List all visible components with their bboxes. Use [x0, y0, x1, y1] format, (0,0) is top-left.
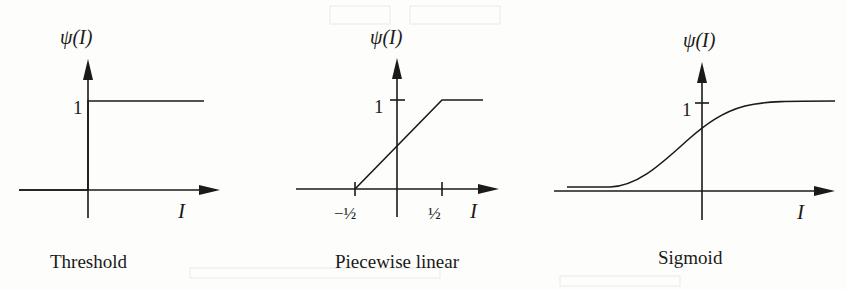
y-axis-arrow-icon: [392, 58, 402, 79]
y-axis-label: ψ(I): [370, 26, 403, 49]
panel-caption: Threshold: [50, 251, 128, 272]
scan-bleed-through: [190, 6, 680, 286]
panel-sigmoid: ψ(I) 1 I Sigmoid: [554, 29, 835, 268]
y-axis-label: ψ(I): [683, 29, 716, 52]
y-axis-arrow-icon: [83, 59, 93, 80]
x-axis-arrow-icon: [478, 184, 499, 194]
x-tick-label-pos-half: ½: [428, 204, 441, 223]
activation-functions-figure: ψ(I) 1 I Threshold ψ(I) 1 −½ ½ I Piece: [0, 0, 847, 290]
y-tick-label-1: 1: [682, 99, 692, 120]
x-axis-arrow-icon: [199, 185, 220, 195]
panel-caption: Sigmoid: [658, 247, 723, 268]
panel-piecewise-linear: ψ(I) 1 −½ ½ I Piecewise linear: [296, 26, 499, 272]
x-axis-label: I: [177, 199, 186, 223]
y-tick-label-1: 1: [73, 97, 83, 118]
x-tick-label-neg-half: −½: [334, 204, 357, 223]
threshold-curve: [19, 101, 204, 190]
y-tick-label-1: 1: [374, 96, 384, 117]
panel-caption: Piecewise linear: [335, 251, 460, 272]
panel-threshold: ψ(I) 1 I Threshold: [19, 26, 220, 272]
activation-functions-svg: ψ(I) 1 I Threshold ψ(I) 1 −½ ½ I Piece: [0, 0, 847, 290]
y-axis-arrow-icon: [697, 62, 707, 83]
x-axis-label: I: [469, 199, 478, 223]
x-axis-arrow-icon: [814, 186, 835, 196]
sigmoid-curve: [567, 101, 835, 187]
y-axis-label: ψ(I): [60, 26, 93, 49]
x-axis-label: I: [796, 200, 805, 224]
